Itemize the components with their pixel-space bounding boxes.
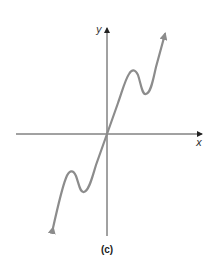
figure-caption: (c) xyxy=(87,245,127,255)
y-axis-label: y xyxy=(96,25,102,35)
x-axis-label: x xyxy=(196,138,202,148)
graph-figure: y x (c) xyxy=(0,0,213,257)
graph-canvas xyxy=(0,0,213,257)
function-curve xyxy=(53,34,165,228)
